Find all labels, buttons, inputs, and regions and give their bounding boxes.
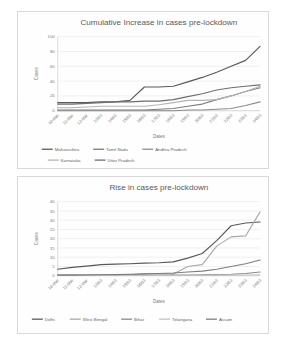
y-axis-tick-label: 80 — [50, 49, 55, 54]
y-axis-tick-label: 5 — [52, 264, 55, 269]
y-axis-tick-label: 40 — [50, 79, 55, 84]
legend-label-maharashtra: Maharashtra — [55, 147, 80, 152]
legend-label-karnataka: Karnataka — [61, 158, 81, 163]
x-axis-tick-label: 24/03 — [251, 112, 262, 123]
x-axis-tick-label: 17/03 — [150, 112, 161, 123]
x-axis-tick-label: 16/03 — [136, 277, 147, 288]
y-axis-title: Cases — [34, 232, 39, 246]
legend-label-telangana: Telangana — [172, 317, 193, 322]
x-axis-tick-label: 10-Mar — [47, 112, 60, 125]
legend-label-uttar-pradesh: Uttar Pradesh — [108, 158, 135, 163]
x-axis-tick-label: 20/03 — [194, 277, 205, 288]
y-axis-tick-label: 60 — [50, 64, 55, 69]
x-axis-tick-label: 15/03 — [121, 112, 132, 123]
series-line-delhi — [58, 222, 260, 269]
chart-panel-rise-in-cases: Rise in cases pre-lockdown05101520253035… — [17, 176, 269, 334]
x-axis-tick-label: 22/03 — [222, 277, 233, 288]
y-axis-tick-label: 15 — [50, 246, 55, 251]
x-axis-tick-label: 22/03 — [222, 112, 233, 123]
x-axis-title: Dates — [153, 134, 166, 139]
y-axis-tick-label: 20 — [50, 94, 55, 99]
series-line-karnataka — [58, 86, 260, 107]
legend-label-assam: Assam — [219, 317, 233, 322]
x-axis-tick-label: 11-Mar — [62, 277, 75, 290]
y-axis-tick-label: 20 — [50, 236, 55, 241]
x-axis-tick-label: 19/03 — [179, 277, 190, 288]
x-axis-tick-label: 21/03 — [208, 277, 219, 288]
x-axis-tick-label: 16/03 — [136, 112, 147, 123]
x-axis-tick-label: 17/03 — [150, 277, 161, 288]
x-axis-tick-label: 13/03 — [92, 112, 103, 123]
x-axis-tick-label: 11-Mar — [62, 112, 75, 125]
x-axis-tick-label: 21/03 — [208, 112, 219, 123]
x-axis-tick-label: 12-Mar — [76, 112, 89, 125]
x-axis-tick-label: 24/03 — [251, 277, 262, 288]
y-axis-tick-label: 10 — [50, 255, 55, 260]
chart-panel-cumulative-increase: Cumulative Increase in cases pre-lockdow… — [17, 11, 269, 169]
x-axis-title: Dates — [153, 299, 166, 304]
legend-label-west-bengal: West Bengal — [83, 317, 108, 322]
y-axis-title: Cases — [34, 67, 39, 81]
y-axis-tick-label: 25 — [50, 227, 55, 232]
chart-title: Cumulative Increase in cases pre-lockdow… — [80, 18, 237, 27]
line-chart-cumulative-increase: Cumulative Increase in cases pre-lockdow… — [18, 12, 268, 168]
legend-label-andhra-pradesh: Andhra Pradesh — [155, 147, 187, 152]
x-axis-tick-label: 18/03 — [165, 112, 176, 123]
legend-label-delhi: Delhi — [45, 317, 55, 322]
x-axis-tick-label: 23/03 — [237, 277, 248, 288]
x-axis-tick-label: 19/03 — [179, 112, 190, 123]
y-axis-tick-label: 40 — [50, 199, 55, 204]
y-axis-tick-label: 0 — [52, 108, 55, 113]
y-axis-tick-label: 30 — [50, 218, 55, 223]
x-axis-tick-label: 15/03 — [121, 277, 132, 288]
line-chart-rise-in-cases: Rise in cases pre-lockdown05101520253035… — [18, 177, 268, 333]
legend-label-tamil-nadu: Tamil Nadu — [106, 147, 128, 152]
y-axis-tick-label: 100 — [48, 34, 56, 39]
series-line-maharashtra — [58, 46, 260, 102]
x-axis-tick-label: 13/03 — [92, 277, 103, 288]
x-axis-tick-label: 14/03 — [107, 277, 118, 288]
y-axis-tick-label: 35 — [50, 209, 55, 214]
x-axis-tick-label: 23/03 — [237, 112, 248, 123]
x-axis-tick-label: 12-Mar — [76, 277, 89, 290]
x-axis-tick-label: 18/03 — [165, 277, 176, 288]
series-line-west-bengal — [58, 212, 260, 275]
x-axis-tick-label: 10-Mar — [47, 277, 60, 290]
chart-title: Rise in cases pre-lockdown — [109, 183, 208, 192]
y-axis-tick-label: 0 — [52, 273, 55, 278]
x-axis-tick-label: 20/03 — [194, 112, 205, 123]
legend-label-bihar: Bihar — [134, 317, 145, 322]
x-axis-tick-label: 14/03 — [107, 112, 118, 123]
series-line-uttar-pradesh — [58, 85, 260, 104]
